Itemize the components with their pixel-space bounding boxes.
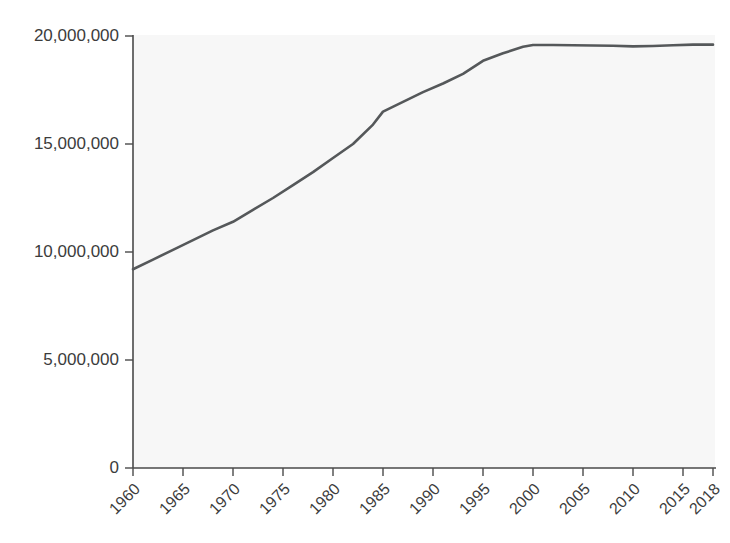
plot-area-background [133,35,715,468]
y-tick-label: 15,000,000 [34,134,119,153]
y-tick-label: 5,000,000 [43,350,119,369]
y-tick-label: 10,000,000 [34,242,119,261]
line-chart: 05,000,00010,000,00015,000,00020,000,000… [0,0,730,543]
y-tick-label: 20,000,000 [34,26,119,45]
chart-canvas: 05,000,00010,000,00015,000,00020,000,000… [0,0,730,543]
y-tick-label: 0 [110,458,119,477]
